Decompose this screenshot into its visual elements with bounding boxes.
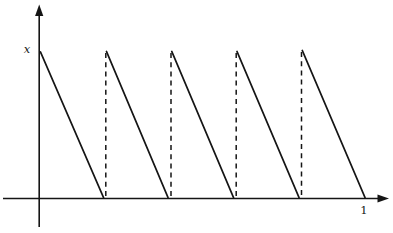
sawtooth-figure: x 1: [0, 0, 393, 233]
sawtooth-segment: [107, 52, 169, 198]
sawtooth-segment: [237, 52, 299, 198]
sawtooth-plot-svg: x 1: [0, 0, 393, 233]
x-axis-arrowhead-icon: [378, 194, 390, 202]
y-axis-peak-value-label: x: [24, 42, 31, 56]
x-axis-tick-label-one: 1: [360, 203, 367, 217]
y-axis-arrowhead-icon: [35, 5, 43, 17]
sawtooth-segment: [172, 52, 234, 198]
sawtooth-segment: [302, 51, 365, 198]
sawtooth-segment: [41, 52, 104, 198]
